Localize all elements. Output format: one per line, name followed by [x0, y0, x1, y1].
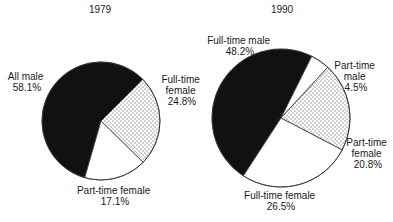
slice-label-text: female: [166, 85, 196, 96]
chart-title-1979: 1979: [89, 4, 112, 15]
slice-label-text: Part-time: [346, 137, 387, 148]
slice-label-text: Full-time female: [244, 190, 316, 201]
pie-chart-1979: 1979 All male 58.1% Full-time female 24.…: [8, 4, 203, 207]
pie-slices-1979: [42, 62, 160, 180]
slice-label-all-male: All male 58.1%: [8, 71, 46, 93]
slice-label-full-time-female: Full-time female 26.5%: [244, 190, 318, 212]
slice-value-label: 17.1%: [101, 196, 129, 207]
pie-slices-1990: [212, 49, 350, 187]
slice-label-part-time-female: Part-time female 17.1%: [77, 185, 153, 207]
slice-value-label: 20.8%: [354, 159, 382, 170]
slice-label-text: Full-time: [161, 74, 200, 85]
slice-label-full-time-female: Full-time female 24.8%: [161, 74, 202, 107]
slice-label-text: Part-time female: [77, 185, 151, 196]
slice-label-text: Part-time: [334, 60, 375, 71]
slice-value-label: 24.8%: [168, 96, 196, 107]
slice-label-text: Full-time male: [207, 35, 270, 46]
slice-value-label: 26.5%: [267, 201, 295, 212]
slice-label-text: male: [344, 71, 366, 82]
slice-value-label: 48.2%: [226, 46, 254, 57]
slice-value-label: 58.1%: [13, 82, 41, 93]
slice-label-part-time-female: Part-time female 20.8%: [346, 137, 389, 170]
slice-value-label: 4.5%: [345, 82, 368, 93]
slice-label-text: All male: [8, 71, 44, 82]
pie-chart-1990: 1990 Full-time male 48.2% Part-time male…: [207, 4, 389, 212]
chart-title-1990: 1990: [271, 4, 294, 15]
pie-charts: 1979 All male 58.1% Full-time female 24.…: [0, 0, 393, 222]
slice-label-text: female: [352, 148, 382, 159]
